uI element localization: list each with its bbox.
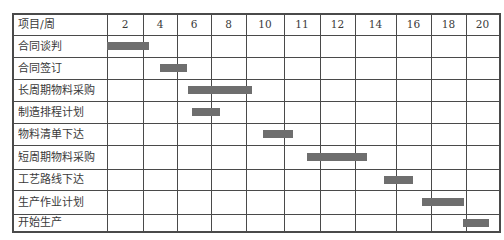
grid-vline	[284, 13, 285, 231]
week-header: 11	[284, 19, 320, 30]
grid-vline	[396, 13, 397, 231]
grid-vline	[320, 13, 321, 231]
task-label: 制造排程计划	[18, 107, 84, 118]
task-bar	[463, 219, 490, 227]
task-bar	[307, 153, 367, 161]
grid-vline	[246, 13, 247, 231]
task-bar	[188, 86, 252, 94]
task-label: 短周期物料采购	[18, 152, 95, 163]
task-label: 合同签订	[18, 63, 62, 74]
grid-hline	[12, 57, 501, 58]
week-header: 12	[320, 19, 355, 30]
task-bar	[422, 198, 464, 206]
week-header: 10	[246, 19, 284, 30]
grid-hline	[12, 13, 501, 15]
gantt-chart: 项目/周246810111214161820合同谈判合同签订长周期物料采购制造排…	[0, 0, 504, 240]
task-label: 开始生产	[18, 217, 62, 228]
grid-vline	[355, 13, 356, 231]
task-bar	[160, 64, 187, 72]
week-header: 4	[143, 19, 177, 30]
grid-hline	[12, 214, 501, 215]
grid-hline	[12, 79, 501, 80]
week-header: 6	[177, 19, 211, 30]
week-header: 14	[355, 19, 396, 30]
week-header: 20	[466, 19, 499, 30]
task-label: 生产作业计划	[18, 197, 84, 208]
task-bar	[384, 176, 414, 184]
grid-vline	[211, 13, 212, 231]
week-header: 8	[211, 19, 246, 30]
task-bar	[263, 130, 293, 138]
task-label: 合同谈判	[18, 41, 62, 52]
task-bar	[107, 42, 149, 50]
grid-hline	[12, 35, 501, 36]
week-header: 16	[396, 19, 431, 30]
grid-hline	[12, 101, 501, 102]
task-label: 物料清单下达	[18, 129, 84, 140]
grid-vline	[499, 13, 501, 231]
task-label: 工艺路线下达	[18, 174, 84, 185]
grid-vline	[466, 13, 467, 231]
week-header: 18	[431, 19, 466, 30]
header-label: 项目/周	[18, 19, 55, 30]
grid-hline	[12, 190, 501, 191]
grid-hline	[12, 123, 501, 124]
grid-vline	[177, 13, 178, 231]
task-bar	[192, 108, 219, 116]
grid-hline	[12, 231, 501, 233]
grid-vline	[12, 13, 14, 231]
grid-hline	[12, 169, 501, 170]
task-label: 长周期物料采购	[18, 85, 95, 96]
grid-hline	[12, 145, 501, 146]
week-header: 2	[107, 19, 143, 30]
